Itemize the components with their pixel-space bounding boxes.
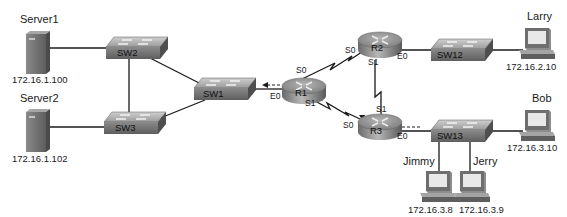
server1-name: Server1	[20, 14, 59, 25]
r1-e0-label: E0	[270, 92, 280, 101]
r3-e0-label: E0	[397, 132, 407, 141]
jimmy-name: Jimmy	[403, 156, 435, 167]
r1-s1-label: S1	[305, 99, 315, 108]
r3-s0-label: S0	[343, 121, 353, 130]
sw13-label: SW13	[437, 131, 463, 141]
server2-icon[interactable]	[26, 109, 50, 152]
bob-ip: 172.16.3.10	[507, 143, 557, 153]
pc-jerry-icon[interactable]	[454, 171, 490, 202]
serial-link-r1-r3	[315, 101, 360, 119]
links	[50, 48, 523, 171]
r1-label: R1	[295, 88, 307, 98]
network-diagram	[0, 0, 567, 217]
pc-larry-icon[interactable]	[519, 28, 555, 59]
sw3-label: SW3	[115, 123, 136, 133]
r2-e0-label: E0	[397, 52, 407, 61]
r3-s1-label: S1	[376, 105, 386, 114]
jerry-ip: 172.16.3.9	[459, 205, 504, 215]
r2-s0-label: S0	[345, 46, 355, 55]
sw12-label: SW12	[437, 50, 463, 60]
r2-s1-label: S1	[368, 58, 378, 67]
link-sw2-sw1	[148, 57, 205, 86]
pc-jimmy-icon[interactable]	[420, 171, 456, 202]
serial-link-r1-r2	[300, 52, 362, 80]
sw1-label: SW1	[203, 89, 224, 99]
r1-s0-label: S0	[296, 66, 306, 75]
larry-ip: 172.16.2.10	[506, 62, 556, 72]
sw2-label: SW2	[117, 48, 138, 58]
server1-icon[interactable]	[26, 31, 50, 74]
r2-label: R2	[371, 43, 383, 53]
server2-ip: 172.16.1.102	[12, 154, 67, 164]
jerry-name: Jerry	[473, 156, 497, 167]
pc-bob-icon[interactable]	[519, 110, 555, 141]
server1-ip: 172.16.1.100	[12, 75, 67, 85]
r3-label: R3	[370, 126, 382, 136]
bob-name: Bob	[532, 93, 552, 104]
jimmy-ip: 172.16.3.8	[408, 205, 453, 215]
larry-name: Larry	[527, 11, 552, 22]
server2-name: Server2	[20, 93, 59, 104]
